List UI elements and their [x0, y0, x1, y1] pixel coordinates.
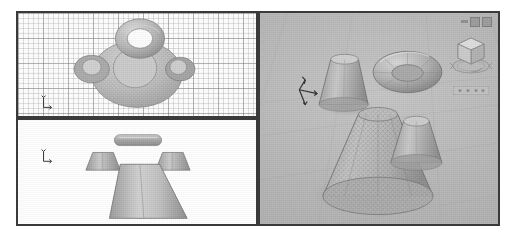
- view-cube-body: [458, 38, 484, 64]
- window-controls[interactable]: [461, 17, 492, 26]
- view-cube[interactable]: [448, 32, 494, 80]
- small-cone-back-3d: [319, 54, 368, 111]
- minimize-button[interactable]: [461, 20, 468, 23]
- ucs-tripod-top: [42, 96, 52, 110]
- small-cone-left-front: [86, 152, 120, 170]
- torus-front: [114, 135, 161, 146]
- top-view-viewport[interactable]: [16, 11, 258, 118]
- restore-button[interactable]: [470, 17, 480, 27]
- ucs-tripod-3d: [299, 77, 317, 105]
- small-cone-left-plan: [74, 55, 109, 83]
- top-view-geometry: [18, 13, 256, 118]
- close-button[interactable]: [482, 17, 492, 27]
- view-cube-icon[interactable]: [448, 32, 494, 80]
- torus-3d: [373, 51, 442, 92]
- front-view-viewport[interactable]: [16, 118, 258, 226]
- perspective-3d-viewport[interactable]: [258, 11, 500, 226]
- navigation-bar-icon[interactable]: [453, 86, 489, 95]
- ucs-tripod-front: [42, 150, 52, 164]
- large-cone-front: [109, 164, 187, 218]
- torus-plan: [115, 19, 164, 58]
- cad-application-window: [0, 0, 514, 236]
- front-view-geometry: [18, 120, 256, 226]
- navigation-bar[interactable]: [453, 81, 489, 90]
- small-cone-right-plan: [166, 57, 196, 81]
